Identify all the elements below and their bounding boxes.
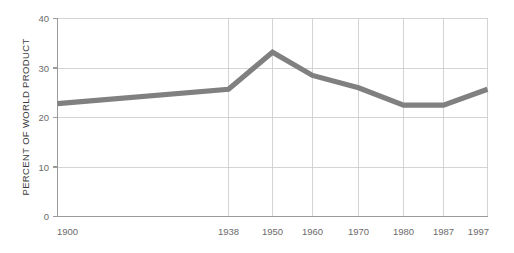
x-tick-label-1987: 1987: [433, 226, 454, 237]
y-tick-marks: [53, 19, 58, 217]
y-tick-label-40: 40: [38, 13, 49, 24]
x-tick-label-1980: 1980: [393, 226, 414, 237]
y-tick-label-20: 20: [38, 112, 49, 123]
chart-figure: 40 30 20 10 0 1900 1938 1950 1960 1970 1…: [0, 0, 514, 253]
y-tick-label-0: 0: [44, 211, 49, 222]
x-tick-label-1950: 1950: [262, 226, 283, 237]
x-tick-label-1970: 1970: [348, 226, 369, 237]
x-tick-label-1900: 1900: [57, 226, 78, 237]
x-tick-label-1938: 1938: [218, 226, 239, 237]
vertical-gridlines: [229, 18, 488, 216]
y-tick-label-10: 10: [38, 162, 49, 173]
x-tick-label-1997: 1997: [468, 226, 489, 237]
line-chart: 40 30 20 10 0 1900 1938 1950 1960 1970 1…: [0, 0, 514, 253]
y-axis-title: PERCENT OF WORLD PRODUCT: [20, 38, 31, 195]
y-tick-labels: 40 30 20 10 0: [38, 13, 49, 222]
y-tick-label-30: 30: [38, 63, 49, 74]
x-tick-labels: 1900 1938 1950 1960 1970 1980 1987 1997: [57, 226, 489, 237]
x-tick-label-1960: 1960: [302, 226, 323, 237]
